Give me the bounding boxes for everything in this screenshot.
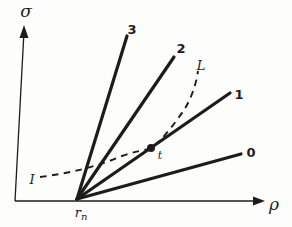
origin-label-rn: rn	[75, 206, 88, 219]
ray-label-0: 0	[246, 146, 255, 159]
y-axis-line	[15, 31, 24, 201]
ray-line-3	[77, 36, 127, 199]
dashed-curve-L	[40, 71, 198, 177]
y-axis-arrowhead	[20, 25, 29, 38]
curve-label-L: L	[197, 59, 206, 72]
x-axis-label-rho: ρ	[269, 196, 279, 213]
point-t-label: t	[158, 150, 162, 161]
ray-label-3: 3	[127, 23, 136, 36]
curve-label-I: I	[29, 173, 34, 186]
ray-label-1: 1	[234, 88, 243, 101]
x-axis-arrowhead	[253, 197, 265, 206]
origin-label-subscript: n	[81, 211, 87, 222]
ray-label-2: 2	[176, 42, 185, 55]
diagram-canvas: σ ρ 3 2 1 0 L I t rn	[0, 0, 292, 227]
point-t-dot	[147, 144, 155, 152]
diagram-svg	[0, 0, 292, 227]
y-axis-label-sigma: σ	[20, 3, 32, 20]
